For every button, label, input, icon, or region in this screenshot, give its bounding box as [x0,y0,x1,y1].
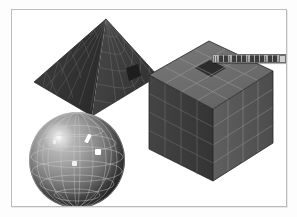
close-icon[interactable] [279,55,286,63]
edge-icon[interactable] [250,55,254,62]
scale-icon[interactable] [237,55,241,62]
subdivide-icon[interactable] [268,55,272,62]
viewport-canvas[interactable]: 3D modelling viewport [12,10,286,206]
object-pyramid[interactable] [28,16,164,126]
arrow-cursor-icon[interactable] [219,55,223,62]
sphere-highlight-3 [72,161,77,166]
floating-tool-palette[interactable] [212,54,286,63]
toolbar-separator [229,56,230,62]
face-icon[interactable] [255,55,259,62]
render-icon[interactable] [273,55,277,62]
pyramid-mesh [28,16,164,126]
sphere-mesh [29,112,125,206]
viewport-frame: 3D modelling viewport [11,9,287,207]
viewport-label: 3D modelling viewport [12,10,13,11]
toolbar-separator [265,56,266,62]
object-sphere[interactable] [29,112,125,206]
app-root: 3D modelling viewport [0,0,297,217]
toolbar-drag-handle[interactable] [214,56,217,62]
vertex-icon[interactable] [242,55,246,62]
toolbar-separator [247,56,248,62]
move-icon[interactable] [224,55,228,62]
extrude-icon[interactable] [260,55,264,62]
rotate-icon[interactable] [232,55,236,62]
sphere-highlight-4 [53,140,56,144]
sphere-highlight-2 [95,149,101,155]
